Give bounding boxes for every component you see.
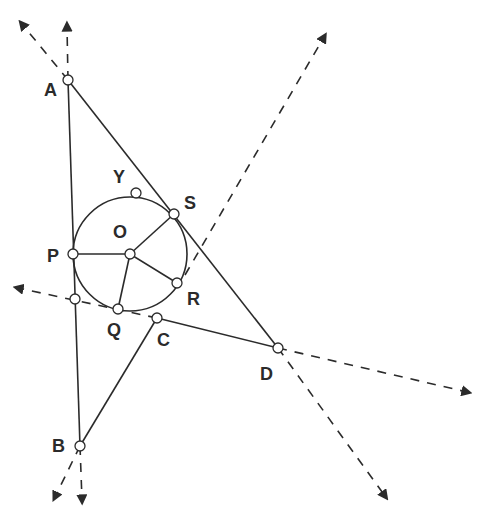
label-o: O bbox=[113, 222, 127, 242]
segment-oq bbox=[118, 254, 130, 309]
segment-ab bbox=[68, 80, 80, 446]
ray-d-right bbox=[278, 348, 467, 392]
point-o bbox=[125, 249, 135, 259]
label-d: D bbox=[260, 364, 273, 384]
ray-b-down bbox=[80, 446, 82, 500]
ray-a-up bbox=[67, 26, 68, 80]
point-r bbox=[172, 278, 182, 288]
point-d bbox=[273, 343, 283, 353]
geometry-diagram: A B C D O P Q R S Y bbox=[0, 0, 485, 519]
point-y bbox=[131, 188, 141, 198]
label-q: Q bbox=[107, 320, 121, 340]
segment-cd bbox=[157, 318, 278, 348]
label-s: S bbox=[184, 193, 196, 213]
label-y: Y bbox=[113, 167, 125, 187]
ray-a-up-left bbox=[22, 24, 68, 80]
point-c bbox=[152, 313, 162, 323]
point-q bbox=[113, 304, 123, 314]
point-x bbox=[70, 294, 80, 304]
ray-d-down-right bbox=[278, 348, 385, 496]
label-c: C bbox=[157, 330, 170, 350]
ray-c-up-right bbox=[185, 37, 324, 275]
segment-os bbox=[130, 214, 174, 254]
label-a: A bbox=[44, 80, 57, 100]
label-p: P bbox=[47, 246, 59, 266]
label-b: B bbox=[52, 436, 65, 456]
point-s bbox=[169, 209, 179, 219]
segment-or bbox=[130, 254, 177, 283]
point-b bbox=[75, 441, 85, 451]
label-r: R bbox=[187, 289, 200, 309]
point-p bbox=[68, 249, 78, 259]
point-a bbox=[63, 75, 73, 85]
